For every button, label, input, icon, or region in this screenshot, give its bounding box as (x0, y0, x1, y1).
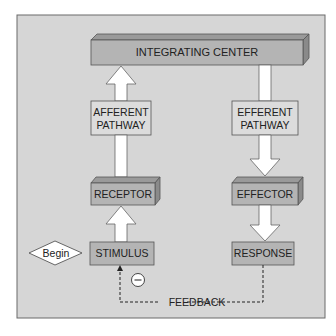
effector-box: EFFECTOR (232, 177, 303, 205)
integrating-center-box: INTEGRATING CENTER (91, 34, 309, 65)
efferent-pathway-box: EFFERENT PATHWAY (232, 101, 298, 135)
receptor-label: RECEPTOR (94, 188, 153, 200)
afferent-pathway-box: AFFERENT PATHWAY (91, 101, 151, 135)
negative-feedback-minus-icon (132, 274, 145, 287)
receptor-top-face (91, 177, 160, 183)
effector-top-face (232, 177, 303, 183)
efferent-pathway-label-line2: PATHWAY (240, 119, 289, 131)
stimulus-box: STIMULUS (90, 242, 154, 265)
integrating-center-top-face (91, 34, 309, 40)
connector-receptor-to-afferent (115, 135, 127, 177)
connector-integrating-to-efferent (259, 65, 271, 101)
begin-label: Begin (43, 247, 70, 259)
response-box: RESPONSE (232, 242, 294, 265)
efferent-pathway-label-line1: EFFERENT (237, 106, 293, 118)
response-label: RESPONSE (234, 247, 292, 259)
afferent-pathway-label-line2: PATHWAY (96, 119, 145, 131)
integrating-center-label: INTEGRATING CENTER (136, 46, 259, 58)
effector-label: EFFECTOR (237, 188, 294, 200)
receptor-box: RECEPTOR (91, 177, 160, 205)
reflex-pathway-diagram: INTEGRATING CENTER AFFERENT PATHWAY RECE… (0, 0, 336, 336)
afferent-pathway-label-line1: AFFERENT (93, 106, 149, 118)
feedback-label: FEEDBACK (169, 296, 226, 308)
stimulus-label: STIMULUS (95, 247, 148, 259)
